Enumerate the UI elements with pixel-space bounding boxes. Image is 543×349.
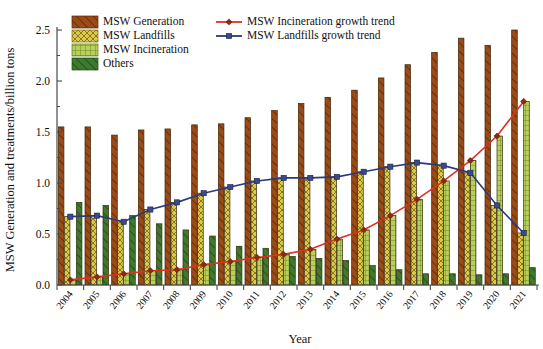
bar-msw-generation-2019 [458, 38, 464, 285]
bar-msw-landfills-2021 [518, 233, 524, 285]
marker-msw-landfills-growth-trend-2005 [94, 213, 99, 218]
marker-msw-landfills-growth-trend-2017 [414, 160, 419, 165]
bar-others-2014 [343, 261, 349, 285]
bar-msw-generation-2010 [218, 124, 224, 285]
bar-others-2013 [316, 258, 322, 285]
bar-msw-landfills-2007 [144, 210, 150, 285]
bar-msw-incineration-2011 [257, 257, 263, 285]
bar-others-2010 [236, 246, 242, 285]
bar-msw-landfills-2010 [224, 187, 230, 285]
bar-msw-landfills-2014 [331, 177, 337, 285]
marker-msw-landfills-growth-trend-2010 [228, 184, 233, 189]
legend-label-msw-generation: MSW Generation [103, 15, 184, 27]
bar-msw-incineration-2017 [417, 199, 423, 285]
marker-msw-landfills-growth-trend-2009 [201, 191, 206, 196]
bar-msw-incineration-2015 [364, 230, 370, 285]
bar-msw-landfills-2016 [384, 167, 390, 285]
bar-msw-landfills-2009 [198, 193, 204, 285]
legend-label-msw-incineration-growth-trend: MSW Incineration growth trend [247, 15, 395, 28]
bar-msw-landfills-2004 [64, 217, 70, 285]
y-axis-title: MSW Generation and treatments/billion to… [3, 48, 17, 273]
y-tick-label-1.5: 1.5 [36, 126, 51, 138]
marker-msw-landfills-growth-trend-2012 [281, 175, 286, 180]
y-tick-label-0.0: 0.0 [36, 279, 51, 291]
legend-label-others: Others [103, 57, 134, 69]
marker-msw-landfills-growth-trend-2008 [174, 200, 179, 205]
bar-msw-generation-2015 [352, 90, 358, 285]
legend-swatch-msw-landfills [72, 30, 98, 42]
legend-swatch-msw-generation [72, 16, 98, 28]
bar-others-2004 [76, 202, 82, 285]
x-axis-title: Year [288, 332, 312, 346]
bar-others-2016 [396, 270, 402, 285]
bar-msw-landfills-2013 [304, 178, 310, 285]
marker-msw-landfills-growth-trend-2018 [441, 163, 446, 168]
bar-others-2020 [503, 274, 509, 285]
bar-msw-incineration-2016 [390, 216, 396, 285]
bar-msw-generation-2007 [138, 130, 144, 285]
bar-others-2017 [423, 274, 429, 285]
bar-others-2021 [530, 268, 536, 285]
legend-swatch-msw-incineration [72, 44, 98, 56]
bar-msw-generation-2004 [58, 127, 64, 285]
marker-msw-landfills-growth-trend-2006 [121, 219, 126, 224]
y-tick-label-2.5: 2.5 [36, 24, 51, 36]
bar-msw-landfills-2011 [251, 181, 257, 285]
marker-msw-landfills-growth-trend-2016 [388, 164, 393, 169]
marker-msw-landfills-growth-trend-2015 [361, 169, 366, 174]
legend-label-msw-incineration: MSW Incineration [103, 43, 189, 55]
bar-msw-incineration-2021 [524, 101, 530, 285]
marker-msw-landfills-growth-trend-2014 [334, 174, 339, 179]
bar-others-2007 [156, 224, 162, 285]
bar-msw-incineration-2009 [204, 265, 210, 285]
marker-msw-landfills-growth-trend-2011 [254, 178, 259, 183]
bar-msw-generation-2005 [85, 127, 91, 285]
bar-msw-incineration-2014 [337, 239, 343, 285]
marker-msw-landfills-growth-trend-2020 [494, 203, 499, 208]
marker-msw-landfills-growth-trend-2004 [68, 214, 73, 219]
bar-msw-generation-2009 [192, 125, 198, 285]
bar-msw-generation-2018 [432, 52, 438, 285]
marker-msw-landfills-growth-trend-2007 [148, 207, 153, 212]
bar-msw-generation-2016 [378, 78, 384, 285]
bar-others-2008 [183, 230, 189, 285]
chart-container: 0.00.51.01.52.02.5 200420052006200720082… [0, 0, 543, 349]
bar-others-2015 [370, 266, 376, 285]
bar-msw-generation-2013 [298, 103, 304, 285]
bar-msw-incineration-2010 [230, 262, 236, 285]
bar-others-2006 [130, 216, 136, 285]
y-tick-label-1.0: 1.0 [36, 177, 51, 189]
bar-others-2019 [476, 275, 482, 285]
y-tick-label-2.0: 2.0 [36, 75, 51, 87]
bar-msw-landfills-2019 [464, 173, 470, 285]
bar-msw-landfills-2017 [411, 163, 417, 285]
bar-msw-generation-2020 [485, 45, 491, 285]
bar-others-2009 [210, 236, 216, 285]
legend-label-msw-landfills: MSW Landfills [103, 29, 175, 41]
bar-others-2012 [290, 256, 296, 285]
bar-msw-incineration-2018 [444, 181, 450, 285]
bar-msw-incineration-2013 [310, 249, 316, 285]
bar-msw-generation-2014 [325, 97, 331, 285]
bar-msw-landfills-2020 [491, 205, 497, 285]
bar-msw-generation-2017 [405, 65, 411, 285]
marker-msw-landfills-growth-trend-2021 [521, 230, 526, 235]
bar-msw-landfills-2012 [278, 178, 284, 285]
bar-msw-generation-2008 [165, 129, 171, 285]
bar-msw-incineration-2012 [284, 254, 290, 285]
bar-msw-generation-2012 [272, 111, 278, 285]
bar-msw-generation-2006 [112, 135, 118, 285]
legend-marker-msw-landfills-growth-trend [226, 33, 231, 38]
msw-grouped-bar-chart: 0.00.51.01.52.02.5 200420052006200720082… [0, 0, 543, 349]
legend-swatch-others [72, 58, 98, 70]
marker-msw-landfills-growth-trend-2013 [308, 175, 313, 180]
bar-msw-landfills-2008 [171, 202, 177, 285]
bar-others-2018 [450, 274, 456, 285]
legend-label-msw-landfills-growth-trend: MSW Landfills growth trend [247, 29, 381, 42]
bar-others-2011 [263, 248, 269, 285]
marker-msw-landfills-growth-trend-2019 [468, 170, 473, 175]
bar-msw-generation-2021 [512, 30, 518, 285]
y-tick-label-0.5: 0.5 [36, 228, 51, 240]
